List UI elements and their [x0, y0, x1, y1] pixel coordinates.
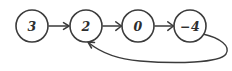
edge-0-to-minus4: [155, 22, 174, 31]
node-label: 2: [81, 19, 91, 34]
edge-curve: [89, 34, 227, 63]
back-edge-minus4-to-2: [88, 34, 227, 63]
node-label: 0: [134, 19, 143, 34]
node-minus-4: −4: [174, 10, 206, 42]
edge-2-to-0: [103, 22, 122, 31]
node-0: 0: [122, 10, 154, 42]
node-3: 3: [16, 10, 48, 42]
diagram-canvas: 3 2 0 −4: [0, 0, 232, 71]
node-label: −4: [180, 19, 200, 34]
linked-list-cycle-diagram: 3 2 0 −4: [0, 0, 232, 71]
node-label: 3: [28, 19, 37, 34]
edge-3-to-2: [49, 23, 69, 30]
node-2: 2: [70, 10, 102, 42]
